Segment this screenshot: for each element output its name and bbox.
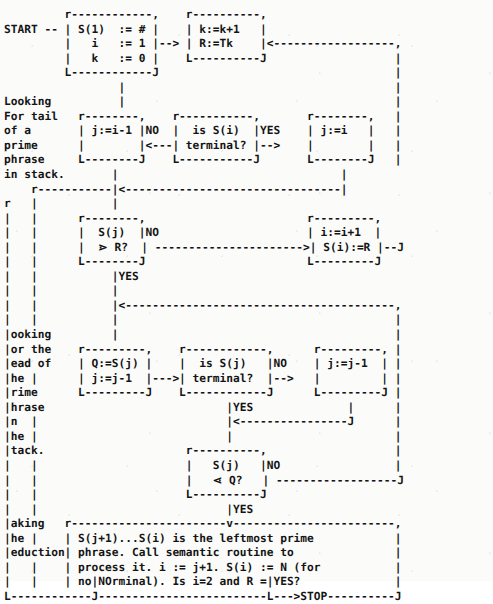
ascii-flowchart-art: r------------, r----------, START -- | S… <box>0 0 493 604</box>
